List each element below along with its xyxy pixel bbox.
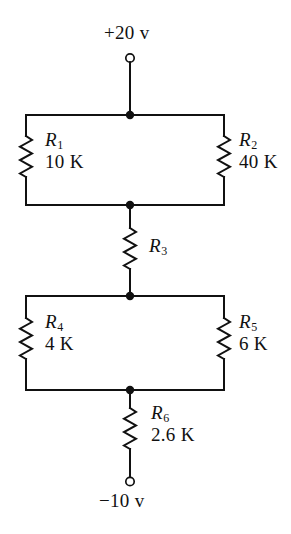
r1-name: R1 [45,130,84,152]
r5-zigzag [218,318,230,359]
r6-value: 2.6 K [151,425,195,444]
r6-label-group: R6 2.6 K [151,403,195,444]
r4-name: R4 [45,312,74,334]
r3-name: R3 [149,236,167,258]
r5-name: R5 [239,312,268,334]
r5-label-group: R5 6 K [239,312,268,353]
r6-zigzag [124,408,136,449]
node-top-dot [126,111,134,119]
r1-label-group: R1 10 K [45,130,84,171]
top-supply-label: +20 v [104,23,149,42]
r6-name: R6 [151,403,195,425]
r2-value: 40 K [239,152,278,171]
r4-value: 4 K [45,334,74,353]
r1-zigzag [20,136,32,177]
top-supply-terminal-icon [126,54,134,62]
circuit-diagram: +20 v R1 10 K R2 40 K R3 R4 4 K R5 6 K R… [0,0,291,534]
r2-name: R2 [239,130,278,152]
r3-zigzag [124,228,136,269]
bottom-supply-terminal-icon [126,477,134,485]
schematic-svg [0,0,291,534]
node-mid-lower-dot [126,292,134,300]
r3-label-group: R3 [149,236,167,258]
r2-label-group: R2 40 K [239,130,278,171]
r4-label-group: R4 4 K [45,312,74,353]
r4-zigzag [20,318,32,359]
r5-value: 6 K [239,334,268,353]
r1-value: 10 K [45,152,84,171]
bottom-supply-label: −10 v [99,491,144,510]
r2-zigzag [218,136,230,177]
